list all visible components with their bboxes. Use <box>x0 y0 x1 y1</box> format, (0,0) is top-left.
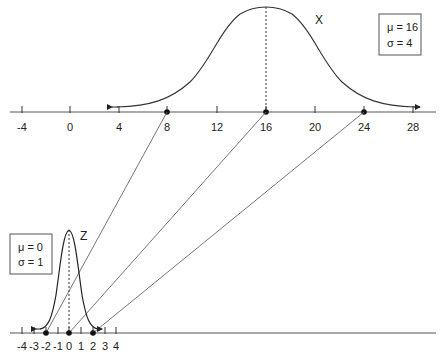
x-tick-label: 28 <box>407 121 419 133</box>
z-tick-label: 2 <box>90 340 96 352</box>
z-tick-label: -1 <box>53 340 63 352</box>
x-tick-label: 0 <box>67 121 73 133</box>
z-distribution: -4 -3 -2 -1 0 1 2 3 4 Z μ = 0 σ = 1 <box>10 229 436 352</box>
normal-to-standard-normal-diagram: -4 0 4 8 12 16 20 24 28 X μ = 16 σ = 4 <box>0 0 446 360</box>
x-sigma-text: σ = 4 <box>387 37 412 49</box>
z-tick-label: 1 <box>78 340 84 352</box>
z-axis-tick-labels: -4 -3 -2 -1 0 1 2 3 4 <box>17 340 119 352</box>
z-curve-label: Z <box>80 229 87 243</box>
x-tick-label: 20 <box>309 121 321 133</box>
x-params-box: μ = 16 σ = 4 <box>379 14 421 55</box>
x-tick-label: -4 <box>17 121 27 133</box>
mapping-lines <box>46 112 364 333</box>
z-sigma-text: σ = 1 <box>18 256 43 268</box>
z-point-neg2 <box>43 330 49 336</box>
x-tick-label: 8 <box>164 121 170 133</box>
x-tick-label: 4 <box>116 121 122 133</box>
z-point-0 <box>66 330 72 336</box>
x-curve-label: X <box>315 13 323 27</box>
mapping-line-24-to-2 <box>93 112 364 333</box>
z-mu-text: μ = 0 <box>18 241 43 253</box>
x-mu-text: μ = 16 <box>387 21 418 33</box>
x-tick-label: 16 <box>260 121 272 133</box>
x-distribution: -4 0 4 8 12 16 20 24 28 X μ = 16 σ = 4 <box>10 7 436 133</box>
z-tick-label: 4 <box>113 340 119 352</box>
z-tick-label: 0 <box>66 340 72 352</box>
x-axis-tick-labels: -4 0 4 8 12 16 20 24 28 <box>17 121 419 133</box>
x-tick-label: 24 <box>358 121 370 133</box>
z-tick-label: 3 <box>102 340 108 352</box>
z-params-box: μ = 0 σ = 1 <box>10 234 52 274</box>
z-tick-label: -4 <box>17 340 27 352</box>
mapping-line-16-to-0 <box>69 112 266 333</box>
z-tick-label: -3 <box>29 340 39 352</box>
x-tick-label: 12 <box>211 121 223 133</box>
z-tick-label: -2 <box>41 340 51 352</box>
z-point-2 <box>90 330 96 336</box>
mapping-line-8-to-neg2 <box>46 112 167 333</box>
